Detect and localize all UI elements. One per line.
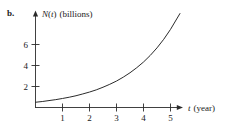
x-axis-label: t(year) — [188, 103, 215, 113]
y-axis-label-units: (billions) — [60, 9, 93, 19]
x-tick-label-3: 3 — [114, 113, 119, 123]
y-tick-label-2: 2 — [24, 82, 29, 92]
y-axis-label: N(t)(billions) — [41, 9, 93, 19]
part-label: b. — [7, 8, 14, 18]
x-tick-label-1: 1 — [60, 113, 65, 123]
x-axis-label-variable: t — [188, 103, 191, 113]
y-axis-label-close-paren: ) — [54, 9, 57, 19]
x-axis-arrow-icon — [177, 105, 183, 110]
y-axis-arrow-icon — [33, 11, 38, 17]
x-tick-label-5: 5 — [168, 113, 173, 123]
exponential-growth-chart: 1 2 3 4 5 2 4 6 N(t)(billions) t(year) — [0, 0, 229, 124]
figure-container: b. 1 2 3 4 5 2 4 6 — [0, 0, 229, 124]
y-tick-label-4: 4 — [24, 61, 29, 71]
y-tick-label-6: 6 — [24, 40, 29, 50]
x-axis-label-units: (year) — [194, 103, 215, 113]
x-tick-label-2: 2 — [87, 113, 92, 123]
x-tick-label-4: 4 — [141, 113, 146, 123]
exponential-curve — [36, 14, 180, 103]
